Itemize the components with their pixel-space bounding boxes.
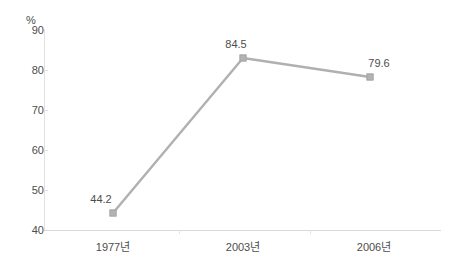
y-tick-label: 80 — [18, 64, 44, 76]
y-tick-label: 70 — [18, 104, 44, 116]
data-point-label: 84.5 — [225, 38, 246, 50]
y-tick-label: 40 — [18, 224, 44, 236]
x-tick-label: 2003년 — [226, 238, 260, 254]
y-tick-mark — [44, 70, 48, 71]
line-chart: % 90 80 70 60 50 40 44.2 84.5 79.6 1977년… — [0, 0, 458, 274]
y-tick-label: 90 — [18, 24, 44, 36]
y-tick-mark — [44, 150, 48, 151]
y-axis-line — [44, 29, 45, 231]
data-point-label: 79.6 — [368, 57, 389, 69]
x-tick-label: 2006년 — [357, 238, 391, 254]
x-tick-mark — [310, 230, 311, 234]
y-tick-label: 60 — [18, 144, 44, 156]
data-point-marker — [110, 210, 117, 217]
y-axis-tick-labels: 90 80 70 60 50 40 — [0, 0, 44, 274]
y-tick-mark — [44, 110, 48, 111]
x-tick-label: 1977년 — [96, 238, 130, 254]
x-axis-line — [44, 230, 441, 231]
data-point-label: 44.2 — [90, 193, 111, 205]
data-point-marker — [367, 74, 374, 81]
y-tick-label: 50 — [18, 184, 44, 196]
x-tick-mark — [179, 230, 180, 234]
data-point-marker — [240, 55, 247, 62]
y-tick-mark — [44, 190, 48, 191]
